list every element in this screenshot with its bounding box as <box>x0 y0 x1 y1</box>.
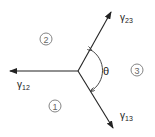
vector-gamma23-arrow <box>78 12 111 71</box>
interface-tension-diagram: θ γ12 γ23 γ13 1 2 3 <box>0 0 155 137</box>
vector-gamma13-arrow <box>78 71 113 128</box>
svg-text:2: 2 <box>43 35 48 45</box>
gamma23-label: γ23 <box>120 12 133 24</box>
phase-3-marker: 3 <box>131 64 143 76</box>
phase-1-marker: 1 <box>49 100 61 112</box>
svg-text:1: 1 <box>52 102 57 112</box>
phase-2-marker: 2 <box>40 33 52 45</box>
gamma12-label: γ12 <box>17 79 30 91</box>
angle-theta-label: θ <box>103 65 109 77</box>
gamma13-label: γ13 <box>120 110 133 122</box>
svg-text:3: 3 <box>134 66 139 76</box>
angle-arc <box>91 50 103 91</box>
